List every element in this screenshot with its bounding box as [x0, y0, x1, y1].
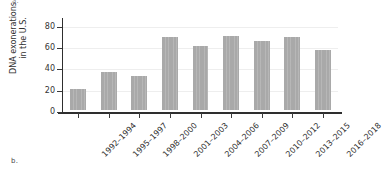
bar	[131, 76, 147, 110]
y-tick-label: 0	[33, 108, 55, 116]
bar	[162, 37, 178, 110]
bar	[70, 89, 86, 110]
bar	[254, 41, 270, 110]
y-axis-title-line-0: DNA exonerations	[9, 0, 19, 93]
x-tick-mark	[201, 113, 202, 118]
x-tick-mark	[292, 113, 293, 118]
y-tick-mark	[57, 112, 62, 113]
bar	[284, 37, 300, 110]
y-tick-label: 60	[33, 44, 55, 52]
y-tick-label: 20	[33, 87, 55, 95]
bars-layer	[62, 18, 342, 112]
y-axis-title: DNA exonerationsin the U.S.	[9, 0, 29, 93]
x-tick-mark	[323, 113, 324, 118]
panel-label-b: b.	[11, 157, 18, 165]
x-tick-mark	[262, 113, 263, 118]
y-tick-label: 80	[33, 23, 55, 31]
bar	[223, 36, 239, 110]
x-tick-mark	[231, 113, 232, 118]
bar	[193, 46, 209, 110]
y-tick-label: 40	[33, 65, 55, 73]
y-axis-title-line-1: in the U.S.	[19, 0, 29, 93]
x-tick-mark	[139, 113, 140, 118]
x-tick-mark	[78, 113, 79, 118]
bar	[315, 50, 331, 110]
bar	[101, 72, 117, 111]
x-tick-mark	[109, 113, 110, 118]
x-tick-mark	[170, 113, 171, 118]
